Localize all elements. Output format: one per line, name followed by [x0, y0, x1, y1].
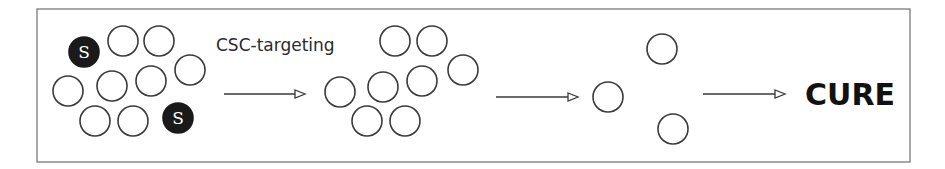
tumor-cell-icon	[380, 26, 410, 56]
tumor-cell-icon	[390, 106, 420, 136]
tumor-cell-icon	[97, 71, 127, 101]
tumor-cell-icon	[407, 66, 437, 96]
tumor-cell-icon	[352, 106, 382, 136]
tumor-cell-icon	[80, 106, 110, 136]
cure-label: CURE	[805, 77, 895, 112]
tumor-cell-icon	[658, 114, 688, 144]
tumor-cell-icon	[144, 26, 174, 56]
arrow-right-icon	[224, 90, 305, 98]
tumor-cell-icon	[368, 72, 398, 102]
tumor-cell-icon	[175, 55, 205, 85]
tumor-cell-icon	[53, 76, 83, 106]
progression-arrows	[224, 90, 785, 101]
stage-initial-tumor: SS	[53, 26, 205, 136]
stage-after-csc-targeting	[325, 26, 478, 136]
tumor-cell-icon	[448, 55, 478, 85]
tumor-cell-icon	[593, 82, 623, 112]
tumor-cell-icon	[108, 26, 138, 56]
arrow-right-icon	[703, 90, 785, 98]
csc-targeting-label: CSC-targeting	[216, 35, 335, 55]
csc-targeting-diagram: SS CSC-targeting CURE	[0, 0, 945, 169]
tumor-cell-icon	[118, 106, 148, 136]
cell-stages: SS	[53, 26, 688, 144]
stage-residual-cells	[593, 34, 688, 144]
tumor-cell-icon	[647, 34, 677, 64]
tumor-cell-icon	[417, 26, 447, 56]
arrow-right-icon	[496, 93, 578, 101]
tumor-cell-icon	[325, 77, 355, 107]
tumor-cell-icon	[136, 66, 166, 96]
stem-cell-label: S	[78, 42, 90, 62]
stem-cell-label: S	[172, 108, 184, 128]
